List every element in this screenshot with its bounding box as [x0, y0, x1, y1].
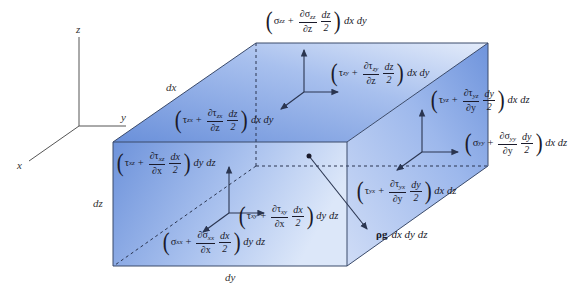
eq-sigma-yy: ( σyy + ∂σyy∂y dy2 ) dx dz [464, 130, 567, 156]
eq-tau-yz: ( τyz + ∂τyz∂y dy2 ) dx dz [430, 87, 529, 113]
eq-sigma-xx: ( σxx + ∂σxx∂x dx2 ) dy dz [162, 229, 265, 255]
eq-sigma-zz: ( σzz + ∂σzz∂z dz2 ) dx dy [265, 8, 367, 34]
axis-x-label: x [17, 160, 22, 171]
center-point [307, 154, 312, 159]
eq-tau-yx: ( τyx + ∂τyx∂y dy2 ) dx dz [356, 178, 456, 204]
eq-tau-xz: ( τxz + ∂τxz∂x dx2 ) dy dz [116, 150, 215, 176]
dim-dx-label: dx [166, 82, 176, 93]
dim-dz-label: dz [93, 198, 103, 209]
eq-tau-zx: ( τzx + ∂τzx∂z dz2 ) dx dy [174, 107, 274, 133]
eq-gravity: ρg dx dy dz [376, 229, 427, 240]
axis-z-label: z [76, 24, 80, 35]
axis-y-label: y [121, 112, 126, 123]
eq-tau-zy: ( τzy + ∂τzy∂z dz2 ) dx dy [330, 60, 430, 86]
eq-tau-xy: ( τxy + ∂τxy∂x dx2 ) dy dz [238, 203, 338, 229]
coordinate-axes [29, 37, 126, 161]
dim-dy-label: dy [225, 272, 235, 283]
